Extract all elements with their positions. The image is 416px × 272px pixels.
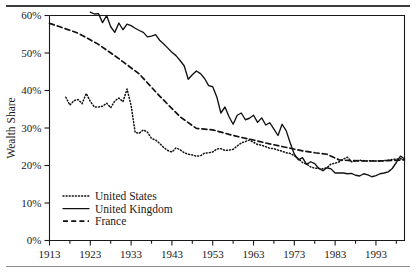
y-tick-label: 60%	[21, 9, 41, 21]
y-tick-label: 0%	[27, 234, 42, 246]
y-tick-label: 30%	[21, 122, 41, 134]
series-line-united-kingdom	[90, 12, 404, 177]
x-tick-label: 1963	[243, 248, 266, 260]
series-group	[50, 12, 405, 177]
x-tick-label: 1973	[283, 248, 306, 260]
x-tick-label: 1983	[324, 248, 347, 260]
y-tick-label: 50%	[21, 47, 41, 59]
y-axis-title: Wealth Share	[5, 97, 17, 158]
y-tick-label: 10%	[21, 197, 41, 209]
x-tick-label: 1953	[202, 248, 225, 260]
x-tick-label: 1993	[365, 248, 388, 260]
legend-label: France	[95, 215, 126, 227]
wealth-share-line-chart: 0%10%20%30%40%50%60%19131923193319431953…	[0, 0, 416, 272]
x-tick-label: 1923	[79, 248, 102, 260]
series-line-united-states	[66, 89, 405, 169]
chart-legend: United StatesUnited KingdomFrance	[63, 190, 173, 227]
legend-label: United Kingdom	[95, 203, 173, 216]
axis-labels-group: 0%10%20%30%40%50%60%19131923193319431953…	[5, 9, 387, 260]
series-line-france	[50, 23, 405, 161]
y-tick-label: 40%	[21, 84, 41, 96]
y-tick-label: 20%	[21, 159, 41, 171]
figure-container: 0%10%20%30%40%50%60%19131923193319431953…	[0, 0, 416, 272]
x-tick-label: 1943	[161, 248, 184, 260]
x-tick-label: 1913	[39, 248, 62, 260]
x-tick-label: 1933	[120, 248, 143, 260]
legend-label: United States	[95, 190, 157, 202]
